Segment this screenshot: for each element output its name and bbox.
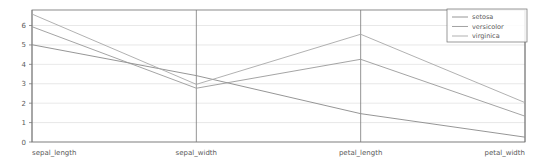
legend-label-setosa[interactable]: setosa	[472, 13, 493, 21]
category-label-petal_length: petal_length	[339, 149, 383, 157]
chart-canvas: 0123456 sepal_lengthsepal_widthpetal_len…	[0, 0, 534, 167]
y-tick-label: 2	[22, 100, 26, 108]
category-label-sepal_width: sepal_width	[176, 149, 217, 157]
y-tick-label: 1	[22, 119, 26, 127]
y-tick-label: 0	[22, 139, 26, 147]
parallel-coordinates-chart: 0123456 sepal_lengthsepal_widthpetal_len…	[0, 0, 534, 167]
legend[interactable]: setosaversicolorvirginica	[447, 9, 527, 42]
category-label-petal_width: petal_width	[484, 149, 525, 157]
y-tick-label: 5	[22, 41, 26, 49]
category-label-sepal_length: sepal_length	[32, 149, 76, 157]
y-tick-label: 3	[22, 80, 26, 88]
y-tick-label: 6	[22, 22, 27, 30]
legend-label-versicolor[interactable]: versicolor	[472, 23, 504, 31]
y-tick-label: 4	[22, 61, 27, 69]
legend-label-virginica[interactable]: virginica	[472, 32, 500, 40]
